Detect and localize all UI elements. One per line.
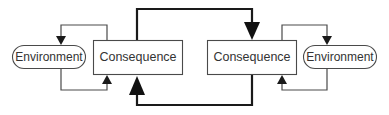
arrowhead-down-icon [322,36,332,45]
arrowhead-down-large-icon [244,22,260,40]
right-environment-label: Environment [303,50,377,64]
left-environment-label: Environment [12,50,86,64]
edge-left-to-right-consequence [137,9,260,40]
right-consequence-label: Consequence [207,50,297,64]
arrowhead-up-large-icon [129,76,145,95]
feedback-loop-diagram: Environment Consequence Consequence Envi… [0,0,389,115]
edge-right-to-left-consequence [129,75,252,105]
arrowhead-up-icon [102,75,112,84]
arrowhead-down-icon [56,36,66,45]
arrowhead-up-icon [277,75,287,84]
left-consequence-label: Consequence [93,50,183,64]
